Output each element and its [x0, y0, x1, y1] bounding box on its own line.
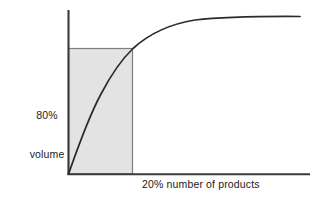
y-axis-label: 80% volume — [27, 83, 67, 187]
y-axis-label-percent: 80% — [27, 109, 67, 122]
highlight-rectangle — [69, 49, 133, 175]
chart-container: 80% volume 20% number of products — [0, 0, 336, 199]
y-axis-label-metric: volume — [27, 148, 67, 161]
x-axis-label: 20% number of products — [142, 178, 260, 191]
